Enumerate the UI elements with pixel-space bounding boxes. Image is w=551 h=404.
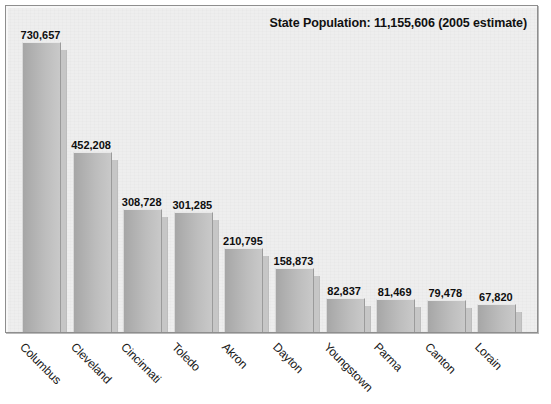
bar[interactable] [123,209,162,332]
bar[interactable] [376,299,415,332]
bar[interactable] [174,212,213,332]
bar-value-label: 210,795 [223,235,263,247]
x-axis-label-akron: Akron [219,340,250,371]
x-axis-label-cleveland: Cleveland [68,340,114,386]
bar-group: 210,795 [224,247,267,332]
x-axis-label-parma: Parma [371,340,405,374]
x-axis-label-dayton: Dayton [270,340,306,376]
bar-shadow [212,220,219,332]
bar-shadow [161,217,168,332]
x-axis-label-canton: Canton [422,340,458,376]
bar-value-label: 158,873 [274,255,314,267]
x-axis-label-cincinnati: Cincinnati [118,340,164,386]
bar-shadow [313,276,320,332]
bar-group: 301,285 [174,211,217,332]
bar-shadow [515,312,522,332]
bar-value-label: 81,469 [378,286,412,298]
bar-group: 452,208 [73,151,116,332]
bar-shadow [111,160,118,332]
chart-title: State Population: 11,155,606 (2005 estim… [269,16,527,30]
bar-value-label: 301,285 [172,199,212,211]
bar-group: 82,837 [326,297,369,332]
bar-group: 67,820 [477,303,520,332]
bar[interactable] [224,248,263,332]
x-axis-label-toledo: Toledo [169,340,203,374]
bar-shadow [262,256,269,332]
population-bar-chart: State Population: 11,155,606 (2005 estim… [0,0,551,404]
bar-group: 81,469 [376,298,419,332]
bar-shadow [60,50,67,332]
bar-value-label: 308,728 [122,196,162,208]
bar-value-label: 730,657 [21,29,61,41]
bar-shadow [414,307,421,332]
bar[interactable] [275,268,314,332]
bar-shadow [465,308,472,332]
bar[interactable] [477,304,516,332]
bar-value-label: 82,837 [327,285,361,297]
x-axis-label-lorain: Lorain [472,340,505,373]
bar-value-label: 452,208 [71,139,111,151]
bar-group: 158,873 [275,267,318,332]
bar[interactable] [73,152,112,332]
bar[interactable] [326,298,365,332]
x-axis-label-columbus: Columbus [17,340,64,387]
bar[interactable] [22,42,61,332]
bar[interactable] [427,300,466,332]
plot-panel: State Population: 11,155,606 (2005 estim… [5,5,538,333]
bar-shadow [364,306,371,332]
bar-group: 79,478 [427,299,470,332]
bar-group: 308,728 [123,208,166,332]
x-axis-label-youngstown: Youngstown [321,340,375,394]
bar-group: 730,657 [22,41,65,332]
bar-value-label: 67,820 [479,291,513,303]
bar-value-label: 79,478 [428,287,462,299]
